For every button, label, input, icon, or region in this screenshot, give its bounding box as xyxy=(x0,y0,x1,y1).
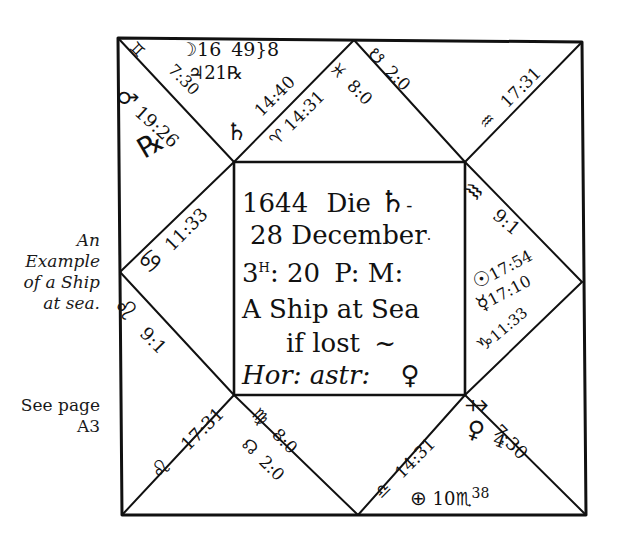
planetary-hour-line: Hor: astr: ♀ xyxy=(242,360,420,390)
jupiter-icon: ♃ xyxy=(188,62,204,83)
retrograde-icon: ℞ xyxy=(227,62,243,83)
venus-icon: ♀ xyxy=(401,360,420,390)
moon-position: ☽16 49}8 xyxy=(180,38,279,60)
date-line: 1644 Die ♄- xyxy=(242,184,412,219)
hour-suffix: H xyxy=(259,260,270,275)
part-of-fortune-position: ⊕ 10♏38 xyxy=(410,485,489,510)
question-line-2: if lost ~ xyxy=(286,328,396,358)
minutes: : 20 xyxy=(270,258,320,288)
planetary-hour-label: Hor: astr: xyxy=(242,360,370,390)
part-of-fortune-icon: ⊕ xyxy=(410,486,427,510)
month: December xyxy=(291,220,426,250)
moon-icon: ☽ xyxy=(180,38,197,60)
pm-label: P: M: xyxy=(334,258,403,288)
scorpio-icon: ♏ xyxy=(455,488,471,509)
saturn-icon: ♄ xyxy=(226,118,248,146)
saturn-day-icon: ♄ xyxy=(379,184,406,219)
year: 1644 xyxy=(242,188,308,218)
day-month-line: 28 December· xyxy=(250,220,431,250)
tilde-mark: ~ xyxy=(374,328,396,358)
diagonal-top-right xyxy=(465,42,582,162)
jupiter-position: ♃21℞ xyxy=(188,62,243,83)
chart-center-inscription: 1644 Die ♄- 28 December· 3H: 20 P: M: A … xyxy=(236,164,464,394)
time-line: 3H: 20 P: M: xyxy=(242,258,403,288)
die-label: Die xyxy=(326,188,371,218)
hour: 3 xyxy=(242,258,259,288)
day: 28 xyxy=(250,220,283,250)
question-line: A Ship at Sea xyxy=(242,294,420,324)
